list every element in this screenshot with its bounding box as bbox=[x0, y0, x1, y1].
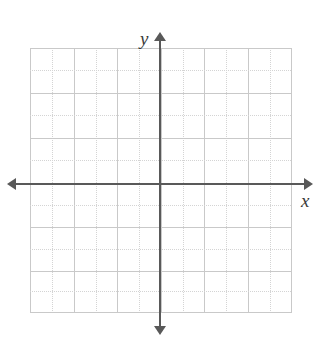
grid-line-vertical bbox=[96, 48, 97, 313]
grid-line-vertical bbox=[161, 48, 162, 313]
grid-line-vertical bbox=[270, 48, 271, 313]
grid-line-horizontal bbox=[30, 205, 292, 206]
grid-line-horizontal bbox=[30, 115, 292, 116]
grid-line-vertical bbox=[248, 48, 249, 313]
grid-line-vertical bbox=[30, 48, 31, 313]
x-axis-line bbox=[14, 183, 310, 185]
y-axis-down-arrow-icon bbox=[154, 326, 166, 335]
grid-line-vertical bbox=[204, 48, 205, 313]
grid-line-horizontal bbox=[30, 291, 292, 292]
grid-line-vertical bbox=[52, 48, 53, 313]
x-axis-label: x bbox=[301, 191, 309, 210]
grid-line-horizontal bbox=[30, 93, 292, 94]
grid-line-horizontal bbox=[30, 70, 292, 71]
grid-line-horizontal bbox=[30, 138, 292, 139]
grid-line-horizontal bbox=[30, 227, 292, 228]
x-axis-left-arrow-icon bbox=[7, 178, 16, 190]
grid-line-vertical bbox=[139, 48, 140, 313]
grid-line-horizontal bbox=[30, 271, 292, 272]
x-axis-right-arrow-icon bbox=[304, 178, 313, 190]
grid-line-horizontal bbox=[30, 249, 292, 250]
y-axis-up-arrow-icon bbox=[154, 32, 166, 41]
grid-line-vertical bbox=[183, 48, 184, 313]
y-axis-line bbox=[159, 40, 161, 329]
grid-line-horizontal bbox=[30, 48, 292, 49]
grid-line-vertical bbox=[74, 48, 75, 313]
grid-line-vertical bbox=[226, 48, 227, 313]
coordinate-grid-figure: y x bbox=[0, 0, 331, 352]
grid-line-vertical bbox=[291, 48, 292, 313]
grid-plane bbox=[30, 48, 292, 313]
grid-line-vertical bbox=[117, 48, 118, 313]
grid-line-horizontal bbox=[30, 312, 292, 313]
y-axis-label: y bbox=[140, 29, 148, 48]
grid-line-horizontal bbox=[30, 160, 292, 161]
